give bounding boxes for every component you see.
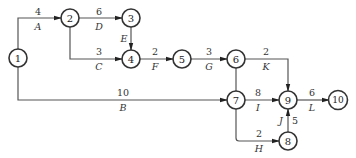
activity-H-label: H [254,143,264,154]
activity-B-label: B [119,102,127,113]
svg-text:2: 2 [67,13,73,24]
node-9: 9 [279,91,297,109]
activity-C-duration: 3 [96,46,102,57]
network-diagram: 4 A 6 D 3 C E 2 F 3 G 2 K 10 B 8 I 2 H J… [0,0,356,158]
svg-text:6: 6 [233,54,239,65]
node-5: 5 [173,50,191,68]
activity-A-label: A [34,21,42,32]
svg-text:9: 9 [285,95,291,106]
activity-D-duration: 6 [96,6,102,17]
activity-K-duration: 2 [263,46,269,57]
node-7: 7 [227,91,245,109]
activity-K-label: K [261,61,270,72]
activity-C-label: C [95,61,103,72]
activity-L-label: L [308,102,315,113]
node-4: 4 [122,50,140,68]
activity-J-label: J [277,115,284,126]
node-3: 3 [122,9,140,27]
node-6: 6 [227,50,245,68]
svg-text:1: 1 [15,53,21,64]
activity-L-duration: 6 [309,87,315,98]
svg-text:5: 5 [179,54,185,65]
activity-H-duration: 2 [256,128,262,139]
svg-text:4: 4 [128,54,134,65]
activity-G-duration: 3 [206,46,212,57]
activity-A-duration: 4 [35,6,41,17]
activity-G-label: G [205,61,213,72]
activity-B-duration: 10 [117,87,129,98]
activity-I-label: I [255,102,260,113]
activity-J-duration: 5 [292,115,298,126]
node-1: 1 [9,49,27,67]
activity-F-duration: 2 [152,46,158,57]
activity-F-label: F [151,61,159,72]
svg-text:10: 10 [332,95,344,105]
node-2: 2 [61,9,79,27]
svg-text:8: 8 [285,136,291,147]
activity-D-label: D [94,21,103,32]
activity-E-label: E [120,33,128,44]
svg-text:7: 7 [233,95,239,106]
activity-I-duration: 8 [255,87,261,98]
node-10: 10 [329,91,348,110]
node-8: 8 [279,132,297,150]
svg-text:3: 3 [128,13,134,24]
